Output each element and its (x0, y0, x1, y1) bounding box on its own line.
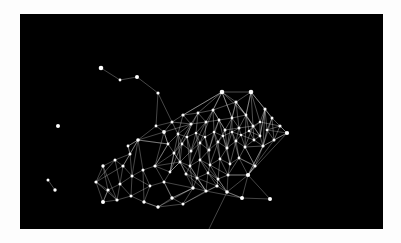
graph-node[interactable] (197, 112, 200, 115)
graph-node[interactable] (106, 188, 109, 191)
graph-node[interactable] (130, 195, 133, 198)
graph-node[interactable] (231, 131, 234, 134)
graph-node[interactable] (229, 163, 232, 166)
graph-node[interactable] (195, 132, 198, 135)
graph-node[interactable] (204, 136, 207, 139)
graph-node[interactable] (167, 143, 170, 146)
graph-node[interactable] (131, 175, 134, 178)
graph-node[interactable] (204, 189, 207, 192)
graph-node[interactable] (199, 142, 202, 145)
graph-node[interactable] (196, 177, 199, 180)
graph-node[interactable] (171, 121, 174, 124)
graph-node[interactable] (253, 139, 256, 142)
graph-node[interactable] (121, 164, 124, 167)
graph-node[interactable] (101, 164, 104, 167)
graph-node[interactable] (227, 174, 230, 177)
graph-node[interactable] (173, 152, 176, 155)
graph-node[interactable] (246, 173, 250, 177)
graph-edge (265, 109, 267, 130)
graph-node[interactable] (156, 205, 159, 208)
graph-node[interactable] (271, 117, 274, 120)
graph-node[interactable] (231, 117, 234, 120)
graph-node[interactable] (213, 131, 216, 134)
graph-node[interactable] (163, 181, 166, 184)
graph-node[interactable] (259, 121, 262, 124)
graph-node[interactable] (129, 153, 132, 156)
graph-node[interactable] (248, 130, 251, 133)
graph-node[interactable] (56, 124, 60, 128)
network-graph-svg[interactable] (20, 14, 383, 229)
graph-node[interactable] (240, 134, 243, 137)
graph-node[interactable] (189, 165, 192, 168)
graph-node[interactable] (209, 164, 212, 167)
graph-node[interactable] (266, 129, 269, 132)
graph-node[interactable] (135, 75, 139, 79)
graph-node[interactable] (235, 140, 238, 143)
graph-node[interactable] (285, 131, 289, 135)
graph-edge (245, 146, 263, 147)
graph-node[interactable] (273, 139, 276, 142)
graph-node[interactable] (240, 196, 244, 200)
graph-node[interactable] (244, 146, 247, 149)
graph-node[interactable] (191, 186, 194, 189)
graph-node[interactable] (207, 172, 210, 175)
graph-node[interactable] (186, 136, 189, 139)
graph-node[interactable] (253, 164, 256, 167)
graph-node[interactable] (190, 150, 193, 153)
graph-node[interactable] (162, 130, 166, 134)
graph-node[interactable] (261, 144, 264, 147)
graph-node[interactable] (234, 100, 237, 103)
graph-node[interactable] (119, 183, 122, 186)
graph-node[interactable] (220, 90, 225, 95)
graph-node[interactable] (115, 198, 118, 201)
graph-node[interactable] (252, 125, 255, 128)
graph-edge (138, 140, 143, 170)
graph-node[interactable] (225, 190, 229, 194)
graph-node[interactable] (47, 179, 50, 182)
graph-node[interactable] (222, 135, 225, 138)
graph-node[interactable] (224, 129, 227, 132)
graph-node[interactable] (177, 133, 180, 136)
graph-node[interactable] (205, 121, 208, 124)
graph-node[interactable] (170, 196, 173, 199)
graph-node[interactable] (119, 79, 122, 82)
graph-node[interactable] (268, 197, 272, 201)
graph-node[interactable] (99, 66, 104, 71)
graph-node[interactable] (94, 180, 97, 183)
graph-node[interactable] (179, 161, 182, 164)
graph-node[interactable] (215, 184, 218, 187)
graph-node[interactable] (238, 157, 241, 160)
graph-node[interactable] (155, 125, 158, 128)
graph-node[interactable] (218, 119, 221, 122)
graph-node[interactable] (181, 113, 184, 116)
graph-node[interactable] (142, 169, 145, 172)
graph-node[interactable] (153, 164, 156, 167)
graph-node[interactable] (217, 178, 220, 181)
graph-node[interactable] (127, 145, 130, 148)
graph-node[interactable] (219, 158, 222, 161)
graph-node[interactable] (114, 159, 117, 162)
graph-node[interactable] (185, 173, 188, 176)
graph-node[interactable] (259, 135, 262, 138)
graph-node[interactable] (136, 138, 140, 142)
graph-node[interactable] (169, 171, 172, 174)
graph-node[interactable] (278, 124, 281, 127)
graph-node[interactable] (156, 91, 159, 94)
graph-node[interactable] (53, 188, 56, 191)
graph-node[interactable] (181, 143, 184, 146)
graph-node[interactable] (217, 141, 220, 144)
graph-node[interactable] (263, 107, 266, 110)
graph-node[interactable] (249, 90, 254, 95)
graph-node[interactable] (182, 203, 185, 206)
graph-node[interactable] (212, 109, 215, 112)
graph-node[interactable] (101, 200, 105, 204)
graph-node[interactable] (199, 159, 202, 162)
graph-node[interactable] (245, 114, 248, 117)
graph-node[interactable] (149, 185, 152, 188)
network-graph-canvas[interactable] (20, 14, 383, 229)
graph-node[interactable] (142, 200, 145, 203)
graph-node[interactable] (238, 127, 241, 130)
graph-node[interactable] (208, 149, 211, 152)
graph-node[interactable] (226, 147, 229, 150)
graph-node[interactable] (190, 123, 193, 126)
